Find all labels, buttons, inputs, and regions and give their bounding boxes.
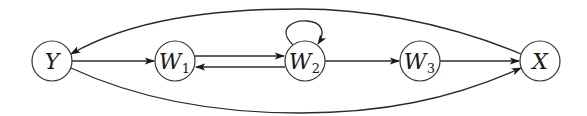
node-w1-label: W [159,49,184,74]
node-w2: W 2 [285,41,325,81]
node-w3-subscript: 3 [427,61,435,76]
node-y: Y [32,41,72,81]
node-w2-subscript: 2 [312,61,320,76]
node-w2-label: W [289,49,314,74]
node-x: X [520,41,560,81]
node-w1: W 1 [155,41,195,81]
graph-canvas: Y W 1 W 2 W 3 X [0,0,587,116]
node-y-label: Y [45,49,62,74]
node-w1-subscript: 1 [182,61,190,76]
node-w3-label: W [404,49,429,74]
node-x-label: X [530,49,549,74]
node-w3: W 3 [400,41,440,81]
